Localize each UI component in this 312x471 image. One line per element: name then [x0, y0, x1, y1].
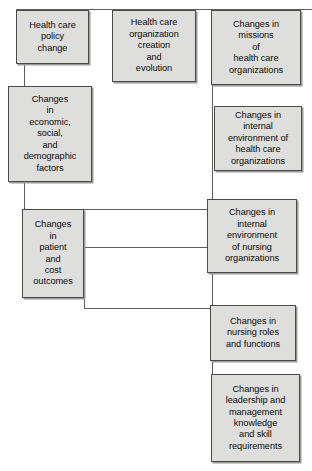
- node-leadership-management: Changes in leadership and management kno…: [211, 374, 300, 462]
- node-economic-social-demographic: Changes in economic, social, and demogra…: [8, 86, 92, 182]
- figure-caption: [6, 464, 306, 471]
- connector-roles-to-leadership: [212, 361, 213, 374]
- node-patient-cost-outcomes: Changes in patient and cost outcomes: [22, 209, 84, 298]
- node-label: Changes in patient and cost outcomes: [33, 219, 72, 287]
- node-missions-change: Changes in missions of health care organ…: [211, 10, 301, 85]
- connector-nursing-env-to-roles: [212, 273, 213, 305]
- node-label: Changes in economic, social, and demogra…: [24, 94, 77, 174]
- node-label: Changes in internal environment of healt…: [228, 110, 288, 167]
- node-policy-change: Health care policy change: [16, 10, 89, 64]
- connector-outcomes-to-nursing-env: [84, 247, 208, 248]
- connector-economic-down-stub: [24, 182, 25, 210]
- node-label: Changes in internal environment of nursi…: [225, 207, 279, 264]
- diagram-canvas: Health care policy changeHealth care org…: [0, 0, 312, 471]
- node-nursing-roles-functions: Changes in nursing roles and functions: [210, 305, 296, 361]
- node-label: Health care organization creation and ev…: [129, 17, 178, 74]
- node-internal-env-nursing: Changes in internal environment of nursi…: [207, 199, 297, 273]
- node-organization-creation: Health care organization creation and ev…: [112, 10, 196, 82]
- node-label: Changes in nursing roles and functions: [226, 316, 280, 350]
- node-label: Health care policy change: [29, 20, 75, 54]
- connector-health-env-to-nursing-env: [212, 171, 213, 199]
- connector-missions-spine-stub: [212, 85, 213, 106]
- node-label: Changes in missions of health care organ…: [229, 19, 283, 76]
- connector-policy-to-economic: [24, 64, 25, 87]
- node-label: Changes in leadership and management kno…: [226, 384, 286, 452]
- connector-outcomes-bottom-rail: [84, 308, 212, 309]
- node-internal-env-health-care: Changes in internal environment of healt…: [214, 106, 302, 171]
